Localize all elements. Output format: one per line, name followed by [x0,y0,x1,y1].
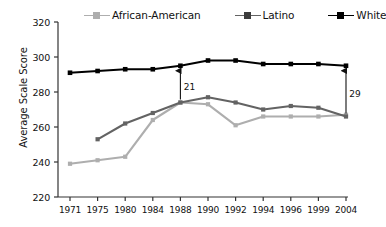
data-point-african-american-1996 [289,114,293,118]
data-point-latino-1996 [289,104,293,108]
data-point-latino-1990 [206,95,210,99]
data-point-latino-1984 [151,111,155,115]
data-point-african-american-1992 [234,123,238,127]
data-point-white-1971 [68,70,73,75]
data-point-african-american-1984 [151,118,155,122]
data-point-white-1999 [316,62,321,67]
data-point-african-american-1971 [68,162,72,166]
data-point-white-1990 [206,58,211,63]
annotation-gap-2004: 29 [349,89,360,99]
series-line-latino [98,97,346,139]
data-point-white-1994 [261,62,266,67]
data-point-white-1996 [289,62,294,67]
data-point-white-1992 [233,58,238,63]
data-point-latino-1994 [261,107,265,111]
annotation-gap-1988: 21 [184,82,195,92]
data-point-latino-1988 [178,100,182,104]
data-point-white-2004 [344,63,349,68]
data-point-white-1984 [151,67,156,72]
series-line-african-american [70,103,346,164]
data-point-latino-1980 [123,121,127,125]
data-point-latino-2004 [344,114,348,118]
data-point-white-1975 [95,69,100,74]
data-point-african-american-1994 [261,114,265,118]
data-point-latino-1975 [96,137,100,141]
data-point-african-american-1975 [96,158,100,162]
data-point-african-american-1999 [316,114,320,118]
data-point-latino-1992 [234,100,238,104]
data-point-white-1980 [123,67,128,72]
data-point-white-1988 [178,63,183,68]
data-point-african-american-1980 [123,155,127,159]
data-point-latino-1999 [316,106,320,110]
data-point-african-american-1990 [206,102,210,106]
